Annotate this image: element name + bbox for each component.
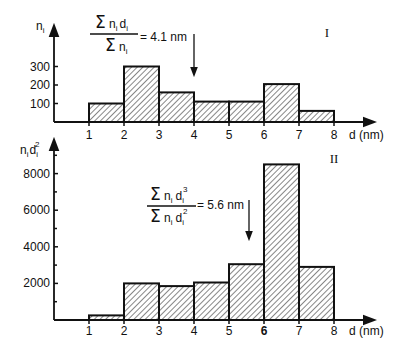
bar-5-6 xyxy=(229,102,264,122)
panel-1-x-axis-label: d (nm) xyxy=(349,128,384,142)
panel-2-ytick-4000: 4000 xyxy=(23,240,50,254)
sigma-symbol: Σ xyxy=(150,206,161,226)
bar-6-7 xyxy=(264,164,299,320)
panel-1-xtick-2: 2 xyxy=(121,128,128,142)
bar-4-5 xyxy=(194,102,229,122)
panel-2-mean-annotation: Σ nidi3 Σ nidi2 = 5.6 nm xyxy=(147,184,249,236)
panel-1-bars xyxy=(89,67,334,123)
denominator-text: nidi2 xyxy=(164,207,188,227)
panel-1-xtick-8: 8 xyxy=(331,128,338,142)
panel-1-xtick-3: 3 xyxy=(156,128,163,142)
bar-6-7 xyxy=(264,84,299,122)
bar-3-4 xyxy=(159,286,194,320)
panel-1-xtick-7: 7 xyxy=(296,128,303,142)
panel-2-xtick-3: 3 xyxy=(156,324,163,338)
panel-2-xtick-6: 6 xyxy=(261,324,268,338)
panel-2-xtick-5: 5 xyxy=(226,324,233,338)
panel-1-roman-label: I xyxy=(325,25,329,40)
denominator-text: ni xyxy=(119,40,128,56)
panel-2-mean-value: = 5.6 nm xyxy=(197,198,244,212)
panel-1-histogram: 100 200 300 1 2 3 4 5 6 7 8 d (nm) ni I xyxy=(30,12,384,142)
figure: 100 200 300 1 2 3 4 5 6 7 8 d (nm) ni I xyxy=(0,0,409,356)
panel-2-ytick-8000: 8000 xyxy=(23,167,50,181)
panel-2-histogram: 2000 4000 6000 8000 1 2 3 4 5 6 7 8 d (n… xyxy=(20,140,384,338)
sigma-symbol: Σ xyxy=(105,35,116,55)
bar-2-3 xyxy=(124,283,159,320)
panel-2-xtick-1: 1 xyxy=(86,324,93,338)
panel-1-ytick-300: 300 xyxy=(30,60,50,74)
panel-1-ytick-200: 200 xyxy=(30,78,50,92)
bar-4-5 xyxy=(194,283,229,321)
panel-1-mean-value: = 4.1 nm xyxy=(140,30,187,44)
bar-7-8 xyxy=(299,267,334,320)
panel-2-xtick-4: 4 xyxy=(191,324,198,338)
panel-2-roman-label: II xyxy=(330,151,339,166)
panel-1-xtick-6: 6 xyxy=(261,128,268,142)
panel-2-xtick-7: 7 xyxy=(296,324,303,338)
panel-1-mean-annotation: Σ nidi Σ ni = 4.1 nm xyxy=(90,12,194,72)
panel-2-ytick-2000: 2000 xyxy=(23,276,50,290)
numerator-text: nidi3 xyxy=(164,185,188,205)
panel-1-y-axis-label: ni xyxy=(36,19,45,35)
panel-2-xtick-2: 2 xyxy=(121,324,128,338)
panel-2-x-axis-label: d (nm) xyxy=(349,324,384,338)
sigma-symbol: Σ xyxy=(150,184,161,204)
numerator-text: nidi xyxy=(109,17,128,33)
panel-1-xtick-4: 4 xyxy=(191,128,198,142)
panel-1-xtick-5: 5 xyxy=(226,128,233,142)
panel-2-ytick-6000: 6000 xyxy=(23,203,50,217)
panel-2-bars xyxy=(89,164,334,320)
bar-2-3 xyxy=(124,67,159,123)
bar-1-2 xyxy=(89,104,124,123)
panel-1-xtick-1: 1 xyxy=(86,128,93,142)
bar-7-8 xyxy=(299,111,334,122)
panel-1-ytick-100: 100 xyxy=(30,97,50,111)
sigma-symbol: Σ xyxy=(95,12,106,32)
panel-2-xtick-8: 8 xyxy=(331,324,338,338)
bar-3-4 xyxy=(159,92,194,122)
panel-2-y-axis-label: nidi2 xyxy=(20,140,40,159)
bar-5-6 xyxy=(229,264,264,320)
